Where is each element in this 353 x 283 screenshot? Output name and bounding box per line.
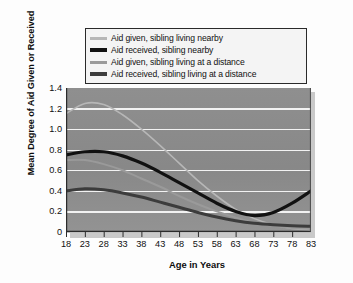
chart-legend: Aid given, sibling living nearbyAid rece…: [85, 28, 307, 84]
plot-area: [66, 88, 311, 232]
x-axis-tick-labels: 1823283338434853586368737883: [0, 239, 353, 253]
chart-figure: 1.41.21.00.80.60.40.20 18232833384348535…: [0, 0, 353, 283]
y-tick-label: 0.8: [38, 145, 62, 155]
legend-item: Aid given, sibling living at a distance: [90, 56, 301, 68]
y-tick-label: 0: [38, 227, 62, 237]
y-tick-label: 1.0: [38, 124, 62, 134]
legend-item-label: Aid received, sibling living at a distan…: [111, 69, 256, 80]
legend-item: Aid received, sibling nearby: [90, 44, 301, 56]
y-tick-label: 0.6: [38, 165, 62, 175]
legend-swatch-icon: [90, 37, 107, 40]
y-tick-label: 1.2: [38, 104, 62, 114]
legend-swatch-icon: [90, 72, 107, 76]
legend-swatch-icon: [90, 61, 107, 64]
y-tick-label: 0.4: [38, 186, 62, 196]
x-axis-title: Age in Years: [66, 259, 328, 270]
legend-item: Aid given, sibling living nearby: [90, 32, 301, 44]
legend-item-label: Aid given, sibling living nearby: [111, 33, 223, 44]
legend-swatch-icon: [90, 48, 107, 52]
x-tick-label: 83: [300, 239, 322, 249]
y-tick-label: 0.2: [38, 206, 62, 216]
legend-item-label: Aid given, sibling living at a distance: [111, 57, 245, 68]
y-axis-title: Mean Degree of Aid Given or Received: [26, 0, 36, 186]
plot-svg: [66, 88, 311, 238]
legend-item-label: Aid received, sibling nearby: [111, 45, 213, 56]
y-tick-label: 1.4: [38, 83, 62, 93]
legend-item: Aid received, sibling living at a distan…: [90, 68, 301, 80]
